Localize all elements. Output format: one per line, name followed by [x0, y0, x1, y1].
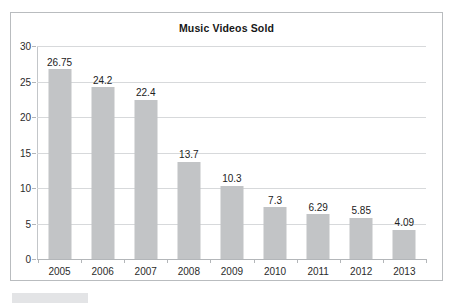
chart-screenshot: Music Videos Sold 30 25 20 15 10 5 [0, 0, 454, 303]
x-label-2013: 2013 [393, 266, 415, 277]
x-tick-mark-2012 [340, 259, 341, 263]
y-tick-mark-5 [32, 224, 36, 225]
y-tick-label-15: 15 [20, 147, 31, 158]
bar-group-2006[interactable]: 24.2 2006 [81, 46, 124, 259]
bar-group-2012[interactable]: 5.85 2012 [340, 46, 383, 259]
x-label-2006: 2006 [92, 266, 114, 277]
bar-label-2005: 26.75 [47, 57, 72, 68]
x-tick-mark-2009 [210, 259, 211, 263]
bar-2006[interactable] [91, 87, 114, 259]
bar-label-2009: 10.3 [222, 173, 241, 184]
x-tick-mark-2013 [383, 259, 384, 263]
bar-group-2010[interactable]: 7.3 2010 [254, 46, 297, 259]
x-tick-mark-end [426, 259, 427, 263]
x-label-2011: 2011 [307, 266, 329, 277]
bar-2013[interactable] [393, 230, 416, 259]
x-tick-mark-2010 [254, 259, 255, 263]
plot-area: 30 25 20 15 10 5 0 26.75 [37, 46, 426, 259]
bar-label-2013: 4.09 [395, 217, 414, 228]
x-tick-mark-2008 [167, 259, 168, 263]
x-tick-mark-2005 [38, 259, 39, 263]
chart-frame: Music Videos Sold 30 25 20 15 10 5 [10, 12, 443, 281]
bar-2010[interactable] [264, 207, 287, 259]
bar-2008[interactable] [177, 162, 200, 259]
chart-title: Music Videos Sold [11, 22, 442, 34]
y-tick-mark-10 [32, 188, 36, 189]
bar-2005[interactable] [48, 69, 71, 259]
bar-group-2009[interactable]: 10.3 2009 [210, 46, 253, 259]
y-tick-label-10: 10 [20, 183, 31, 194]
y-tick-mark-0 [32, 259, 36, 260]
x-tick-mark-2011 [297, 259, 298, 263]
x-tick-mark-2007 [124, 259, 125, 263]
bar-2009[interactable] [220, 186, 243, 259]
y-tick-label-25: 25 [20, 76, 31, 87]
y-tick-mark-15 [32, 153, 36, 154]
y-tick-label-5: 5 [25, 218, 31, 229]
bar-2012[interactable] [350, 218, 373, 260]
bar-label-2010: 7.3 [268, 195, 282, 206]
y-tick-label-0: 0 [25, 254, 31, 265]
bar-group-2007[interactable]: 22.4 2007 [124, 46, 167, 259]
bar-group-2013[interactable]: 4.09 2013 [383, 46, 426, 259]
x-label-2005: 2005 [48, 266, 70, 277]
x-tick-mark-2006 [81, 259, 82, 263]
y-tick-mark-25 [32, 82, 36, 83]
bar-group-2005[interactable]: 26.75 2005 [38, 46, 81, 259]
bar-label-2008: 13.7 [179, 149, 198, 160]
x-label-2009: 2009 [221, 266, 243, 277]
x-label-2008: 2008 [178, 266, 200, 277]
bar-series: 26.75 2005 24.2 2006 22.4 2007 [38, 46, 426, 259]
x-label-2007: 2007 [135, 266, 157, 277]
y-tick-label-30: 30 [20, 41, 31, 52]
bar-label-2007: 22.4 [136, 87, 155, 98]
y-tick-label-20: 20 [20, 112, 31, 123]
bar-label-2012: 5.85 [352, 205, 371, 216]
bar-group-2011[interactable]: 6.29 2011 [297, 46, 340, 259]
x-label-2012: 2012 [350, 266, 372, 277]
y-tick-mark-30 [32, 46, 36, 47]
page-edge-artifact [12, 293, 88, 303]
bar-label-2006: 24.2 [93, 75, 112, 86]
bar-2007[interactable] [134, 100, 157, 259]
x-label-2010: 2010 [264, 266, 286, 277]
bar-label-2011: 6.29 [308, 202, 327, 213]
bar-2011[interactable] [307, 214, 330, 259]
gridline-0-baseline [37, 259, 426, 260]
y-tick-mark-20 [32, 117, 36, 118]
bar-group-2008[interactable]: 13.7 2008 [167, 46, 210, 259]
